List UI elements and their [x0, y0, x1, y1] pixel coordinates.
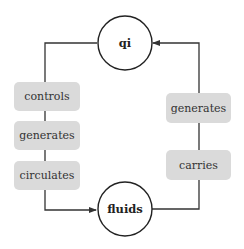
edge-label-text: generates: [171, 102, 227, 115]
edge-label-generates-left: generates: [14, 121, 80, 150]
node-qi: qi: [98, 16, 152, 70]
edge-label-text: generates: [19, 129, 75, 142]
node-fluids: fluids: [98, 182, 152, 236]
edge-label-text: carries: [179, 159, 218, 172]
edge-label-text: circulates: [20, 169, 75, 182]
edge-label-circulates: circulates: [14, 161, 80, 190]
edge-label-controls: controls: [14, 82, 80, 111]
edge-label-carries: carries: [166, 150, 231, 180]
node-label: qi: [119, 36, 132, 50]
edge-label-generates-right: generates: [166, 93, 231, 123]
edge-fluids-to-qi: [152, 43, 199, 209]
edge-label-text: controls: [24, 90, 70, 103]
cycle-diagram: controls generates circulates generates …: [0, 0, 244, 249]
node-label: fluids: [107, 202, 143, 216]
